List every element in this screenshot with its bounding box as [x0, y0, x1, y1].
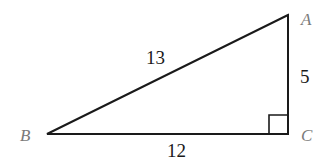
right-angle-marker — [269, 115, 288, 134]
triangle-diagram: A B C 13 5 12 — [0, 0, 336, 168]
vertex-label-a: A — [300, 10, 312, 29]
side-label-bc: 12 — [167, 140, 186, 161]
vertex-label-c: C — [301, 126, 313, 145]
vertex-label-b: B — [20, 126, 31, 145]
side-label-ac: 5 — [300, 66, 310, 87]
triangle-abc — [47, 15, 288, 134]
side-label-ab: 13 — [146, 47, 165, 68]
